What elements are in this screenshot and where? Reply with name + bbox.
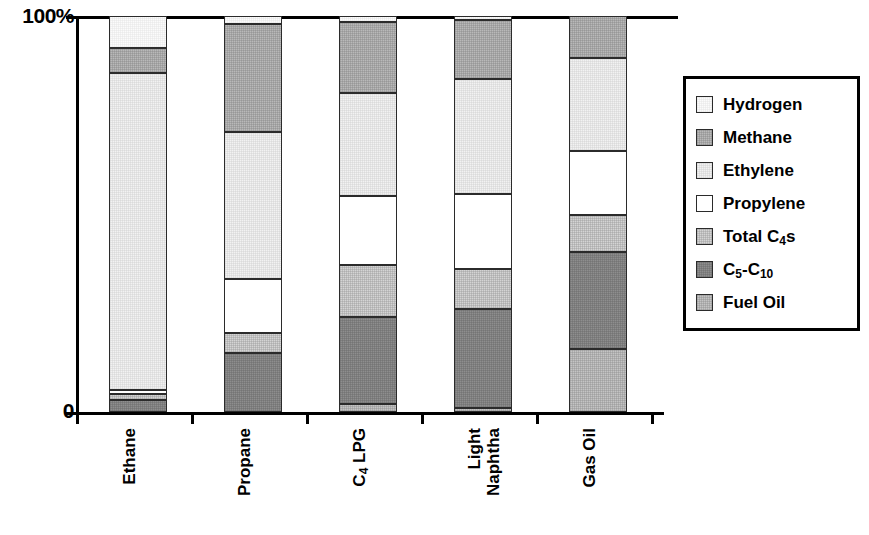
segment-texture <box>110 395 166 399</box>
swatch-texture <box>697 262 712 277</box>
segment-texture <box>455 80 511 193</box>
bar-segment-total-c4s <box>454 269 512 309</box>
segment-texture <box>570 17 626 57</box>
legend-item-c5[interactable]: C5-C10 <box>696 253 849 286</box>
segment-texture <box>110 17 166 47</box>
bar-segment-c5-c10 <box>224 353 282 412</box>
chart-legend: HydrogenMethaneEthylenePropyleneTotal C4… <box>683 76 860 331</box>
x-axis-line <box>76 412 664 415</box>
bar-segment-total-c4s <box>569 215 627 253</box>
bar-segment-fuel-oil <box>339 404 397 412</box>
segment-texture <box>570 216 626 252</box>
x-label-propane: Propane <box>235 428 255 535</box>
legend-swatch-icon <box>696 96 713 113</box>
bar-segment-methane <box>224 24 282 132</box>
x-label-light-naphtha: LightNaphtha <box>465 428 503 535</box>
segment-texture <box>340 405 396 411</box>
legend-label: Fuel Oil <box>723 293 785 313</box>
x-label-gas-oil: Gas Oil <box>580 428 600 535</box>
segment-texture <box>570 350 626 411</box>
legend-label: Propylene <box>723 194 805 214</box>
bar-propane <box>224 16 282 412</box>
bar-segment-propylene <box>569 151 627 214</box>
segment-texture <box>340 318 396 403</box>
bar-segment-ethylene <box>569 58 627 152</box>
bar-segment-methane <box>339 22 397 93</box>
segment-texture <box>455 17 511 19</box>
legend-item-methane[interactable]: Methane <box>696 121 849 154</box>
bar-segment-propylene <box>454 194 512 269</box>
x-tick-3 <box>421 413 424 424</box>
x-label-ethane: Ethane <box>120 428 140 535</box>
bar-segment-ethylene <box>109 73 167 390</box>
segment-texture <box>340 23 396 92</box>
swatch-texture <box>697 295 712 310</box>
legend-swatch-icon <box>696 129 713 146</box>
bar-segment-hydrogen <box>224 16 282 24</box>
bar-segment-c5-c10 <box>454 309 512 408</box>
bar-segment-total-c4s <box>339 265 397 316</box>
legend-label: C5-C10 <box>723 260 773 280</box>
segment-texture <box>455 270 511 308</box>
x-label-c4-lpg: C4 LPG <box>350 428 371 535</box>
legend-item-total-c4[interactable]: Total C4s <box>696 220 849 253</box>
x-tick-1 <box>191 413 194 424</box>
segment-texture <box>225 334 281 352</box>
swatch-texture <box>697 97 712 112</box>
legend-swatch-icon <box>696 261 713 278</box>
segment-texture <box>225 133 281 278</box>
bar-light-naphtha <box>454 16 512 412</box>
legend-label: Ethylene <box>723 161 794 181</box>
legend-item-propylene[interactable]: Propylene <box>696 187 849 220</box>
bar-segment-methane <box>569 16 627 58</box>
x-tick-4 <box>536 413 539 424</box>
swatch-texture <box>697 130 712 145</box>
top-axis-extension <box>664 16 678 19</box>
bar-segment-ethylene <box>224 132 282 279</box>
segment-texture <box>455 310 511 407</box>
x-tick-2 <box>306 413 309 424</box>
x-tick-5 <box>651 413 654 424</box>
bar-segment-fuel-oil <box>454 408 512 412</box>
legend-swatch-icon <box>696 162 713 179</box>
segment-texture <box>570 59 626 151</box>
legend-label: Total C4s <box>723 227 796 247</box>
segment-texture <box>110 401 166 411</box>
legend-swatch-icon <box>696 195 713 212</box>
bar-segment-ethylene <box>339 93 397 196</box>
bar-segment-fuel-oil <box>569 349 627 412</box>
segment-texture <box>110 74 166 389</box>
bar-segment-propylene <box>339 196 397 265</box>
bar-segment-propylene <box>224 279 282 333</box>
swatch-texture <box>697 163 712 178</box>
bar-segment-hydrogen <box>109 16 167 48</box>
y-axis-label-zero: 0 <box>63 399 74 423</box>
bar-segment-ethylene <box>454 79 512 194</box>
bar-segment-c5-c10 <box>109 400 167 412</box>
segment-texture <box>455 21 511 78</box>
bar-c4-lpg <box>339 16 397 412</box>
legend-swatch-icon <box>696 294 713 311</box>
segment-texture <box>570 253 626 347</box>
legend-item-hydrogen[interactable]: Hydrogen <box>696 88 849 121</box>
chart-figure: 100% 0 EthanePropaneC4 LPGLightNaphthaGa… <box>0 0 869 535</box>
bar-segment-c5-c10 <box>569 252 627 348</box>
swatch-texture <box>697 229 712 244</box>
x-tick-0 <box>76 413 79 424</box>
segment-texture <box>225 354 281 411</box>
bar-segment-total-c4s <box>224 333 282 353</box>
legend-label: Methane <box>723 128 792 148</box>
bar-ethane <box>109 16 167 412</box>
segment-texture <box>225 17 281 23</box>
legend-item-ethylene[interactable]: Ethylene <box>696 154 849 187</box>
segment-texture <box>225 25 281 131</box>
legend-label: Hydrogen <box>723 95 802 115</box>
bar-segment-methane <box>454 20 512 79</box>
bar-segment-c5-c10 <box>339 317 397 404</box>
legend-swatch-icon <box>696 228 713 245</box>
bars-container <box>76 16 664 412</box>
legend-item-fuel-oil[interactable]: Fuel Oil <box>696 286 849 319</box>
bar-segment-methane <box>109 48 167 74</box>
segment-texture <box>455 409 511 411</box>
bar-gas-oil <box>569 16 627 412</box>
